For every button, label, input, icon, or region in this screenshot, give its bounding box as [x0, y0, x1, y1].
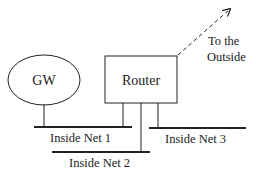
- net1-label: Inside Net 1: [50, 131, 111, 145]
- network-diagram: GW Router To the Outside Inside Net 1 In…: [0, 0, 256, 171]
- outside-label-line2: Outside: [207, 50, 246, 64]
- outside-arrow: [178, 9, 230, 55]
- net2-label: Inside Net 2: [69, 156, 130, 170]
- router-label: Router: [122, 73, 160, 88]
- outside-label-line1: To the: [208, 34, 240, 48]
- net3-label: Inside Net 3: [165, 132, 226, 146]
- gateway-label: GW: [32, 73, 56, 88]
